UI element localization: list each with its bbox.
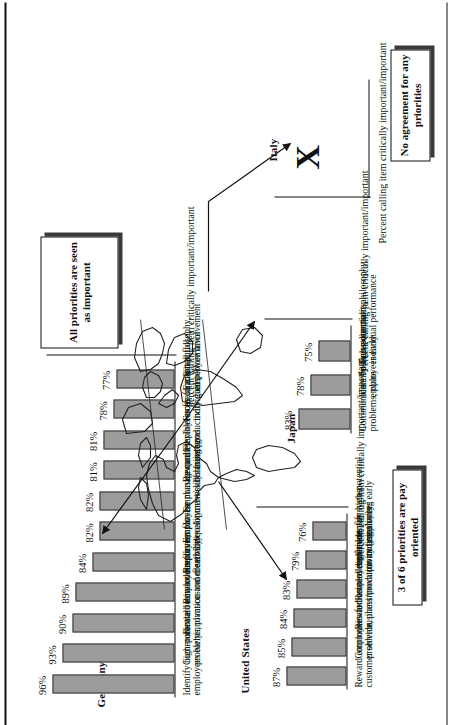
bar — [318, 340, 351, 361]
bar-value-label: 93% — [46, 645, 57, 664]
arrow-map-to-united-states — [214, 475, 292, 585]
bar-value-label: 90% — [56, 614, 67, 633]
callout-italy: No agreement for any priorities — [390, 49, 430, 161]
infographic-canvas: Germany 96%93%90%89%84%82%82%81%81%78%77… — [0, 0, 451, 725]
axis-caption-us: Percent calling item critically importan… — [354, 449, 365, 559]
page-rule-top — [4, 2, 6, 725]
arrow-map-to-japan — [180, 315, 260, 425]
bar — [52, 674, 174, 693]
axis-caption-japan: Percent calling item critically importan… — [358, 261, 369, 371]
callout-box: No agreement for any priorities — [390, 49, 430, 161]
bar — [312, 521, 346, 540]
bar — [305, 550, 346, 569]
bar-value-label: 84% — [76, 553, 87, 572]
bar-value-label: 85% — [275, 638, 286, 657]
country-title-united-states: United States — [238, 628, 250, 693]
callout-box: 3 of 6 priorities are pay oriented — [392, 469, 422, 605]
bar — [310, 374, 350, 395]
bar-value-label: 82% — [83, 492, 94, 511]
callout-text-united-states: 3 of 6 priorities are pay oriented — [394, 470, 419, 604]
bar — [286, 666, 346, 685]
callout-text-italy: No agreement for any priorities — [397, 50, 422, 160]
bar — [62, 644, 174, 663]
callout-text-germany: All priorities are seen as important — [66, 237, 91, 347]
axis-baseline-italy — [368, 79, 369, 197]
bar-value-label: 84% — [277, 609, 288, 628]
bar-value-label: 89% — [59, 584, 70, 603]
bar — [293, 608, 346, 627]
bar-value-label: 82% — [83, 523, 94, 542]
arrow-map-to-germany — [96, 419, 186, 539]
arrow-map-to-italy — [206, 123, 298, 293]
bar — [72, 613, 174, 632]
bar-value-label: 87% — [270, 667, 281, 686]
bar — [291, 637, 346, 656]
bar — [92, 552, 174, 571]
bar-value-label: 96% — [36, 675, 47, 694]
bar — [75, 583, 174, 602]
bar — [296, 579, 346, 598]
axis-caption-italy: Percent calling item critically importan… — [376, 133, 387, 243]
callout-united-states: 3 of 6 priorities are pay oriented — [392, 469, 422, 605]
